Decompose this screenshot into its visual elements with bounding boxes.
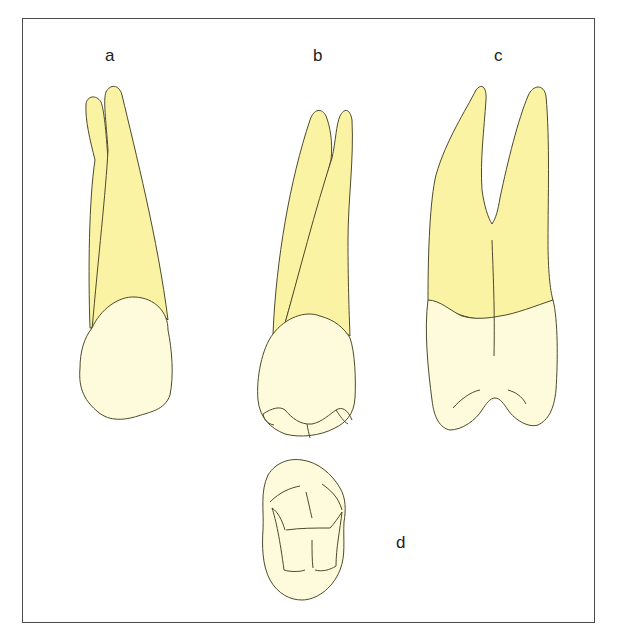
tooth-c (426, 86, 557, 430)
tooth-b (258, 110, 356, 438)
tooth-a (80, 86, 172, 419)
tooth-diagram (0, 0, 618, 637)
tooth-d (263, 460, 346, 600)
